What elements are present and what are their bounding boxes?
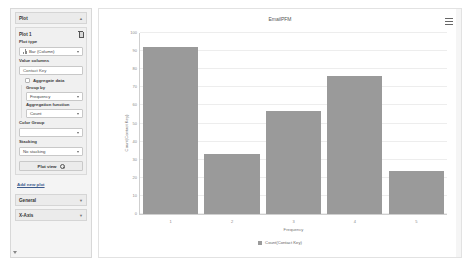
color-group-select[interactable] [19, 128, 83, 137]
plot-name-label: Plot 1 [19, 32, 32, 37]
hamburger-menu-icon[interactable] [445, 18, 453, 25]
bar[interactable] [266, 111, 321, 214]
bar[interactable] [143, 47, 198, 214]
y-axis-tick-label: 20 [133, 174, 137, 179]
legend-label: Count(Contact Key) [265, 240, 302, 245]
x-axis-tick-label: 3 [292, 219, 294, 224]
bar-chart-icon [23, 49, 27, 54]
y-axis-tick-label: 90 [133, 48, 137, 53]
chevron-down-icon [77, 113, 79, 115]
x-axis-tick-label: 5 [415, 219, 417, 224]
sidebar-section-plot[interactable]: Plot ▲ [15, 12, 87, 24]
add-new-plot-link[interactable]: Add new plot [15, 178, 87, 191]
value-columns-label: Value columns [19, 58, 83, 64]
bar-column[interactable] [389, 33, 444, 214]
sidebar-section-general[interactable]: General ▼ [15, 194, 87, 206]
aggregation-function-value: Count [30, 111, 41, 116]
bar-column[interactable] [266, 33, 321, 214]
plot-type-label: Plot type [19, 39, 83, 45]
plot-view-label: Plot view [37, 164, 56, 169]
plot-type-value-wrap: Bar (Column) [23, 49, 55, 54]
bar[interactable] [204, 154, 259, 214]
plot-type-select[interactable]: Bar (Column) [19, 47, 83, 56]
aggregate-data-label: Aggregate data [33, 78, 64, 83]
bar-column[interactable] [327, 33, 382, 214]
sidebar-section-x-axis[interactable]: X-Axis ▼ [15, 209, 87, 221]
chart-scrollbar[interactable] [456, 9, 461, 257]
x-axis-tick-label: 4 [354, 219, 356, 224]
y-axis-tick-label: 0 [135, 211, 137, 216]
scroll-down-arrow-icon[interactable] [13, 251, 17, 254]
aggregate-data-checkbox-row[interactable]: Aggregate data [19, 78, 83, 83]
y-axis-tick-label: 100 [130, 30, 137, 35]
chevron-down-icon [77, 96, 79, 98]
plot-view-button[interactable]: Plot view [19, 161, 83, 171]
y-axis-tick-label: 10 [133, 192, 137, 197]
x-axis-label: Frequency [140, 227, 447, 232]
y-axis-tick-label: 40 [133, 138, 137, 143]
plot-builder-app: Plot ▲ Plot 1 Plot type Bar (Column) Val… [0, 0, 468, 268]
chevron-down-icon [77, 151, 79, 153]
chevron-down-icon: ▼ [79, 213, 83, 218]
y-axis-tick-label: 70 [133, 84, 137, 89]
value-columns-value: Contact Key [23, 68, 46, 73]
y-axis-tick-label: 80 [133, 66, 137, 71]
stacking-label: Stacking [19, 139, 83, 145]
chevron-down-icon [77, 51, 79, 53]
plot-card-header: Plot 1 [19, 31, 83, 37]
chart-title: EmailPFM [99, 16, 461, 22]
bar-column[interactable] [143, 33, 198, 214]
group-by-select[interactable]: Frequency [26, 92, 83, 101]
x-axis-tick-label: 1 [170, 219, 172, 224]
y-axis-label: Count(Contact Key) [124, 115, 129, 152]
plot-type-value: Bar (Column) [29, 49, 55, 54]
chart-panel: EmailPFM Count(Contact Key) 010203040506… [98, 8, 462, 258]
stacking-value: No stacking [23, 149, 45, 154]
aggregate-data-checkbox[interactable] [25, 78, 30, 83]
aggregate-options-group: Group by Frequency Aggregation function … [21, 85, 83, 118]
sidebar-content: Plot ▲ Plot 1 Plot type Bar (Column) Val… [11, 9, 91, 257]
sidebar-section-plot-label: Plot [19, 16, 28, 21]
plot-card: Plot 1 Plot type Bar (Column) Value colu… [15, 27, 87, 175]
trash-icon[interactable] [78, 31, 83, 37]
group-by-label: Group by [26, 85, 83, 91]
legend-swatch [258, 241, 262, 245]
chevron-down-icon: ▼ [79, 198, 83, 203]
group-by-value: Frequency [30, 94, 50, 99]
x-axis-tick-label: 2 [231, 219, 233, 224]
value-columns-input[interactable]: Contact Key [19, 66, 83, 75]
y-axis-tick-label: 30 [133, 156, 137, 161]
sidebar-section-general-label: General [19, 198, 36, 203]
plot-settings-sidebar: Plot ▲ Plot 1 Plot type Bar (Column) Val… [10, 8, 92, 258]
y-axis-tick-label: 50 [133, 120, 137, 125]
chart-legend: Count(Contact Key) [99, 240, 461, 245]
sidebar-section-x-axis-label: X-Axis [19, 213, 33, 218]
aggregation-function-label: Aggregation function [26, 102, 83, 108]
aggregation-function-select[interactable]: Count [26, 109, 83, 118]
bar[interactable] [327, 76, 382, 214]
bar-series [140, 33, 447, 214]
magnifier-icon [60, 164, 65, 169]
color-group-label: Color Group [19, 120, 83, 126]
plot-area: 0102030405060708090100 12345 Frequency [139, 33, 447, 215]
chevron-down-icon [77, 132, 79, 134]
y-axis-tick-label: 60 [133, 102, 137, 107]
stacking-select[interactable]: No stacking [19, 147, 83, 156]
bar[interactable] [389, 171, 444, 214]
chevron-up-icon: ▲ [79, 16, 83, 21]
bar-column[interactable] [204, 33, 259, 214]
